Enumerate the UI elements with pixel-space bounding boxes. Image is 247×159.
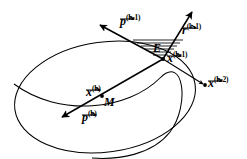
vector-accent-x-k: x xyxy=(86,86,92,98)
vector-diagram-figure: p (k-1) r (k-1) E x (k-1) x (k-2) xyxy=(0,0,247,159)
vector-accent-r-km1: r xyxy=(182,24,187,36)
label-region-E: E xyxy=(153,42,161,54)
vector-accent-x-km2: x xyxy=(208,77,214,89)
vector-accent-x-km1: x xyxy=(167,52,173,64)
label-r-k-minus-1: r (k-1) xyxy=(182,23,201,36)
label-x-k-minus-2: x (k-2) xyxy=(208,76,228,89)
superscript-p-k: (k) xyxy=(88,109,97,118)
label-x-k-minus-1: x (k-1) xyxy=(167,51,187,64)
superscript-x-km2: (k-2) xyxy=(214,75,228,84)
label-p-k: p (k) xyxy=(82,110,97,123)
label-p-k-minus-1: p (k-1) xyxy=(120,14,140,27)
vector-accent-p-k: p xyxy=(82,111,88,123)
superscript-r-km1: (k-1) xyxy=(187,22,201,31)
marker-dots xyxy=(100,57,207,98)
superscript-x-k: (k) xyxy=(92,84,101,93)
point-x-km2-dot xyxy=(203,83,207,87)
vector-accent-p-km1: p xyxy=(120,15,126,27)
label-point-M: M xyxy=(104,96,115,108)
point-x-km1-dot xyxy=(161,57,165,61)
superscript-x-km1: (k-1) xyxy=(173,50,187,59)
superscript-p-km1: (k-1) xyxy=(126,13,140,22)
label-x-k: x (k) xyxy=(86,85,101,98)
